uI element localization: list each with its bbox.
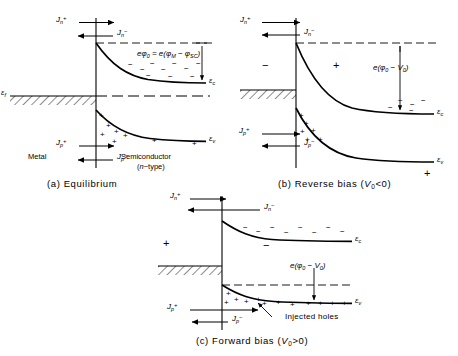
panel-a-electron: −: [150, 60, 155, 68]
panel-a-electron: −: [190, 73, 195, 81]
panel-c-valence-band-label: εv: [355, 297, 361, 306]
panel-c-electron: −: [243, 224, 248, 232]
panel-b-semiconductor-side-sign: +: [333, 60, 339, 71]
panel-a-hole: +: [123, 132, 128, 140]
panel-c-hole: +: [330, 300, 335, 308]
panel-b-caption: (b) Reverse bias (V0<0): [278, 179, 391, 190]
panel-a-fermi-level-label: εf: [1, 89, 6, 98]
panel-a-hole: +: [114, 128, 119, 136]
panel-b-current-jn-minus-label: Jn−: [304, 28, 314, 37]
panel-c-electron: −: [256, 228, 261, 236]
panel-a-valence-band-label: εv: [209, 135, 215, 144]
panel-a-electron: −: [172, 60, 177, 68]
panel-c-current-jn-plus-label: Jn+: [170, 192, 180, 201]
panel-a-electron: −: [128, 61, 133, 69]
panel-a-semiconductor-region-label: Semiconductor: [121, 153, 171, 161]
panel-b-barrier-equation: e(φ0 − V0): [373, 64, 409, 73]
panel-b-bottom-sign: +: [424, 168, 430, 179]
panel-b-electron: −: [421, 97, 426, 105]
panel-c-electron: −: [298, 224, 303, 232]
panel-b-current-jn-plus-label: Jn+: [240, 16, 250, 25]
panel-a-electron: −: [196, 60, 201, 68]
panel-a-electron: −: [140, 66, 145, 74]
panel-c-electron: −: [326, 224, 331, 232]
panel-a-hole: +: [152, 137, 157, 145]
panel-b-hole: +: [300, 128, 305, 136]
panel-a-electron: −: [168, 73, 173, 81]
panel-c-hole: +: [244, 298, 249, 306]
panel-a-caption: (a) Equilibrium: [47, 179, 117, 189]
panel-b-hole: +: [305, 136, 310, 144]
panel-a-hole: +: [99, 112, 104, 120]
panel-c-hole: +: [276, 299, 281, 307]
figure-root: Jn+ Jn− Jp+ Jp− eφ0 = e(φM − φSC) εc εv …: [0, 0, 458, 356]
panel-b-hole: +: [318, 136, 323, 144]
panel-a-electron: −: [184, 65, 189, 73]
panel-c-metal-fermi-sea: [158, 266, 222, 275]
panel-c-current-jn-minus-label: Jn−: [264, 203, 274, 212]
panel-c-hole: +: [318, 300, 323, 308]
panel-b-linework: [240, 18, 440, 168]
panel-c-hole: +: [224, 299, 229, 307]
panel-c-hole: +: [290, 301, 295, 309]
panel-a-hole: +: [112, 138, 117, 146]
panel-c-metal-side-sign: +: [163, 238, 169, 249]
panel-b-electron: −: [398, 97, 403, 105]
panel-c-current-jp-minus-label: Jp−: [232, 315, 242, 324]
panel-a-semiconductor-type-label: (n−type): [137, 163, 165, 171]
panel-a-hole: +: [106, 122, 111, 130]
panel-b-valence-band-label: εv: [437, 156, 443, 165]
panel-c-barrier-equation: e(φ0 − V0): [290, 262, 326, 271]
panel-c-hole: +: [226, 290, 231, 298]
panel-b-conduction-band-label: εc: [437, 108, 443, 117]
panel-a-electron: −: [146, 72, 151, 80]
panel-c-semiconductor-side-sign: −: [263, 240, 269, 251]
panel-a-current-jp-plus-label: Jp+: [56, 139, 66, 148]
panel-a-hole: +: [192, 140, 197, 148]
panel-a-conduction-band-label: εc: [209, 77, 215, 86]
panel-c-hole: +: [342, 300, 347, 308]
panel-c-current-jp-plus-label: Jp+: [167, 303, 177, 312]
panel-b-electron: −: [409, 107, 414, 115]
panel-c-electron: −: [312, 229, 317, 237]
panel-c-hole: +: [306, 300, 311, 308]
panel-a-linework: [10, 18, 212, 168]
panel-c-hole: +: [256, 296, 261, 304]
panel-a-electron: −: [161, 66, 166, 74]
panel-c-electron: −: [284, 229, 289, 237]
panel-a-current-jn-minus-label: Jn−: [117, 29, 127, 38]
panel-a-hole: +: [100, 131, 105, 139]
panel-c-conduction-band-label: εc: [355, 235, 361, 244]
panel-c-injected-holes-annotation: Injected holes: [285, 313, 339, 321]
panel-c-hole: +: [234, 296, 239, 304]
panel-b-hole: +: [299, 112, 304, 120]
panel-c-hole: +: [262, 300, 267, 308]
panel-c-electron: −: [270, 224, 275, 232]
panel-a-barrier-equation: eφ0 = e(φM − φSC): [137, 50, 200, 59]
panel-a-current-jn-plus-label: Jn+: [56, 16, 66, 25]
panel-c-electron: −: [340, 228, 345, 236]
panel-b-valence-band: [296, 108, 434, 162]
panel-a-metal-fermi-sea: [10, 96, 96, 105]
panel-b-current-jp-plus-label: Jp+: [239, 127, 249, 136]
panel-b-metal-fermi-sea: [240, 90, 296, 99]
panel-c-caption: (c) Forward bias (V0>0): [196, 336, 308, 347]
panel-a-metal-region-label: Metal: [28, 153, 46, 161]
panel-b-electron: −: [388, 104, 393, 112]
panel-b-hole: +: [311, 127, 316, 135]
panel-b-metal-side-sign: −: [262, 60, 268, 71]
